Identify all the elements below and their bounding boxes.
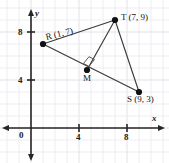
point-T bbox=[112, 17, 118, 23]
axis-lines bbox=[5, 12, 162, 158]
tick-marks bbox=[27, 32, 127, 132]
point-label-M: M bbox=[83, 74, 91, 83]
point-label-T: T (7, 9) bbox=[121, 13, 148, 22]
x-tick-label-8: 8 bbox=[124, 133, 129, 142]
origin-label: 0 bbox=[19, 131, 24, 140]
geometry-diagram: R (1, 7) T (7, 9) S (9, 3) M y x 0 4 8 4… bbox=[0, 0, 169, 163]
y-axis-label: y bbox=[35, 9, 39, 18]
x-axis-label: x bbox=[152, 114, 157, 123]
y-tick-label-4: 4 bbox=[18, 76, 23, 85]
point-label-S: S (9, 3) bbox=[127, 95, 154, 104]
x-tick-label-4: 4 bbox=[76, 133, 81, 142]
point-R bbox=[40, 41, 46, 47]
y-tick-label-8: 8 bbox=[18, 28, 23, 37]
